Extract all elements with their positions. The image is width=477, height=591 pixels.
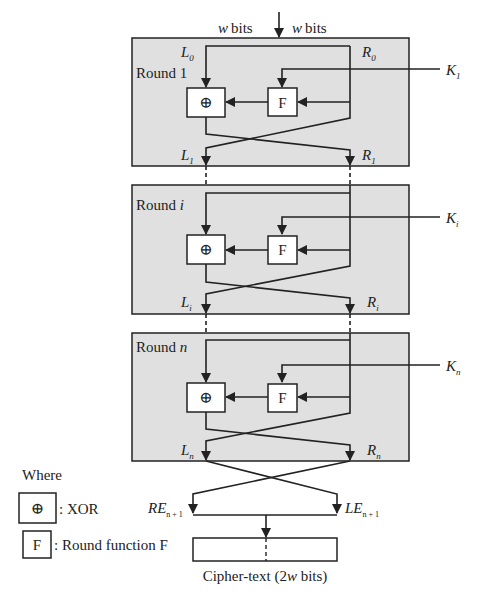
round-n-xor-icon: ⊕ — [199, 389, 212, 406]
ciphertext: Cipher-text (2w bits) — [193, 538, 337, 585]
round-n-f-label: F — [278, 390, 286, 406]
round-n: Round n ⊕ F Kn Ln Rn — [132, 333, 461, 461]
round-1-label: Round 1 — [136, 65, 187, 81]
re-label: REn + 1 — [147, 500, 183, 519]
legend-f-text: : Round function F — [54, 537, 168, 553]
input-section: wbits wbits — [218, 12, 327, 37]
le-label: LEn + 1 — [344, 500, 379, 519]
round-i: Round i ⊕ F Ki Li Ri — [132, 185, 459, 314]
round-i-xor-icon: ⊕ — [199, 241, 212, 258]
final-swap: REn + 1 LEn + 1 — [147, 461, 379, 537]
ciphertext-box — [193, 538, 337, 561]
round-i-key-label: Ki — [445, 210, 459, 229]
input-right-label: wbits — [292, 20, 327, 36]
ciphertext-label: Cipher-text (2w bits) — [203, 568, 328, 585]
legend-title: Where — [22, 467, 62, 483]
round-1-xor-icon: ⊕ — [199, 94, 212, 111]
round-n-key-label: Kn — [445, 358, 461, 377]
legend: Where ⊕ : XOR F : Round function F — [19, 467, 168, 558]
swap-right-to-left-line — [193, 461, 350, 513]
round-i-label: Round i — [136, 197, 184, 213]
round-1-key-label: K1 — [445, 62, 461, 81]
legend-xor-icon: ⊕ — [31, 500, 44, 517]
feistel-diagram: wbits wbits Round 1 L0 R0 ⊕ F K1 L1 R1 R… — [0, 0, 477, 591]
round-i-f-label: F — [278, 242, 286, 258]
round-1-f-label: F — [278, 95, 286, 111]
round-n-label: Round n — [136, 339, 187, 355]
legend-f-icon: F — [33, 537, 41, 553]
legend-xor-text: : XOR — [59, 501, 99, 517]
round-1: Round 1 L0 R0 ⊕ F K1 L1 R1 — [132, 38, 461, 166]
input-left-label: wbits — [218, 20, 253, 36]
